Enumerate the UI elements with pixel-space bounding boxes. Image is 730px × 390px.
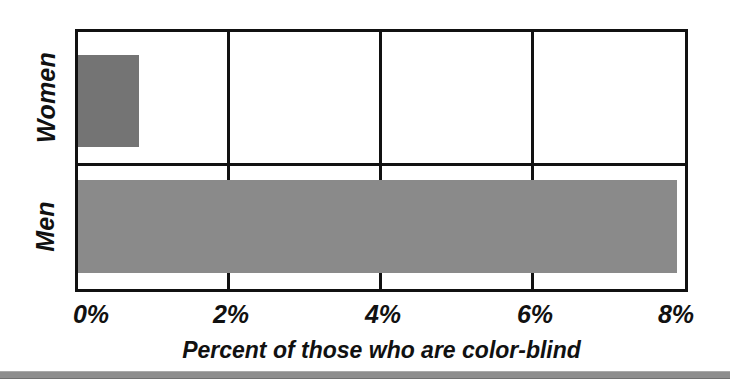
xtick-label-4: 8% [636, 300, 716, 329]
category-band-divider [78, 163, 685, 166]
xtick-label-0: 0% [51, 300, 131, 329]
footer-rule [0, 371, 730, 379]
x-axis-title: Percent of those who are color-blind [75, 337, 688, 364]
bar-women [78, 55, 139, 147]
plot-area [75, 29, 688, 292]
ylabel-women: Women [32, 38, 61, 158]
xtick-label-3: 6% [495, 300, 575, 329]
xtick-label-2: 4% [343, 300, 423, 329]
ylabel-men: Men [31, 167, 60, 287]
bar-men [78, 180, 677, 273]
bar-chart-figure: Women Men 0% 2% 4% 6% 8% Percent of thos… [0, 0, 730, 390]
xtick-label-1: 2% [191, 300, 271, 329]
